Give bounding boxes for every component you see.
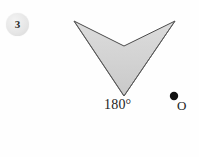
worksheet-figure-panel: 3 180° O [0, 0, 199, 157]
dart-shape [74, 21, 175, 96]
rotation-angle-label: 180° [104, 97, 131, 113]
point-o-label: O [177, 98, 186, 114]
question-number-badge: 3 [6, 13, 29, 36]
question-number-label: 3 [15, 19, 21, 30]
geometry-figure [0, 0, 199, 157]
